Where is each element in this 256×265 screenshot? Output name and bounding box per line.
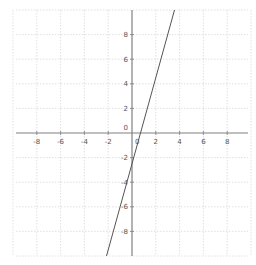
y-tick-label: 6 (124, 56, 129, 64)
y-tick-label: -8 (121, 228, 128, 236)
x-tick-label: 6 (201, 138, 206, 146)
x-tick-label: 4 (177, 138, 182, 146)
y-tick-label: -2 (121, 154, 128, 162)
axes (16, 10, 248, 256)
y-tick-label: 8 (124, 31, 128, 39)
x-tick-label: -4 (81, 138, 89, 146)
y-tick-label: -6 (121, 203, 129, 211)
x-tick-label: -6 (57, 138, 65, 146)
x-tick-label: 2 (154, 138, 158, 146)
x-tick-label: -8 (33, 138, 40, 146)
y-tick-label: 2 (124, 105, 128, 113)
origin-y-label: 0 (124, 124, 128, 132)
x-tick-label: 8 (225, 138, 229, 146)
coordinate-plane: -8-6-4-224688642-2-4-6-800 (0, 0, 256, 265)
x-tick-label: -2 (105, 138, 112, 146)
y-tick-label: 4 (124, 80, 129, 88)
